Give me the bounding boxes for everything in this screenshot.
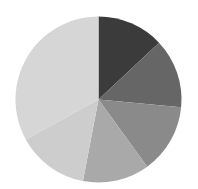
pie-chart bbox=[0, 0, 198, 189]
pie-chart-svg bbox=[0, 0, 198, 189]
